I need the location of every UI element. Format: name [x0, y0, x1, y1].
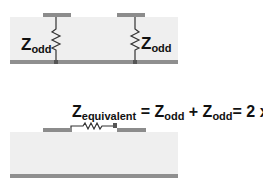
bottom-substrate — [10, 132, 178, 174]
top-ground-plane — [10, 60, 178, 64]
series-resistor-icon — [71, 120, 119, 132]
left-resistor-icon — [50, 17, 62, 64]
bottom-left-trace — [43, 128, 72, 132]
bottom-right-trace — [117, 128, 146, 132]
right-resistor-icon — [129, 17, 141, 64]
right-zodd-label: Zodd — [141, 35, 172, 54]
bottom-ground-plane — [10, 174, 178, 178]
left-zodd-label: Zodd — [21, 36, 52, 55]
